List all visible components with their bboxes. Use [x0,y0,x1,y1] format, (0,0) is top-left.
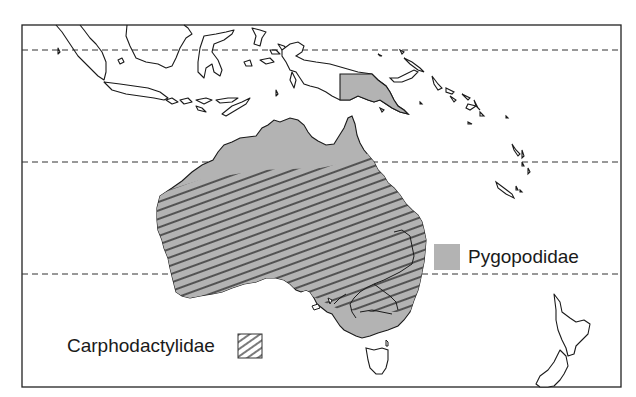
carphodactylidae-swatch-fill [238,334,262,358]
pygopodidae-swatch [434,244,460,270]
pygopodidae-legend-label: Pygopodidae [468,247,579,266]
carphodactylidae-legend-label: Carphodactylidae [67,336,215,355]
